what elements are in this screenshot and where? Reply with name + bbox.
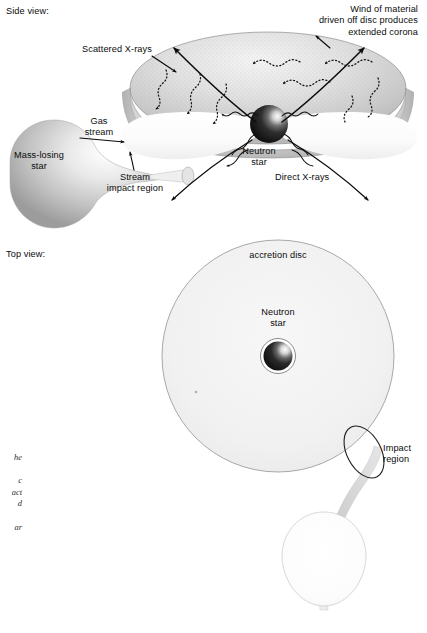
label-neutron-star-side: Neutron star	[233, 146, 285, 169]
xray-binary-diagram	[0, 0, 427, 633]
label-impact-region: Impact region	[383, 443, 427, 466]
leader-stream-impact	[130, 152, 134, 170]
disc-speck	[195, 391, 198, 394]
side-view-group	[10, 32, 417, 228]
side-view-label: Side view:	[6, 6, 49, 17]
top-view-label: Top view:	[6, 249, 45, 260]
neutron-star-side	[250, 105, 288, 143]
label-gas-stream: Gas stream	[75, 116, 123, 139]
label-direct-xrays: Direct X-rays	[275, 172, 329, 183]
companion-star-top	[282, 512, 366, 606]
label-neutron-star-top: Neutron star	[249, 307, 307, 330]
neutron-star-top	[261, 339, 296, 374]
top-view-group	[162, 240, 394, 610]
label-accretion-disc: accretion disc	[220, 250, 336, 261]
label-scattered-xrays: Scattered X-rays	[82, 44, 152, 55]
label-wind-of-material: Wind of material driven off disc produce…	[319, 4, 418, 38]
label-stream-impact-region: Stream impact region	[96, 172, 174, 195]
label-mass-losing-star: Mass-losing star	[4, 150, 74, 173]
caption-fragment: he c act d ar	[0, 452, 22, 533]
